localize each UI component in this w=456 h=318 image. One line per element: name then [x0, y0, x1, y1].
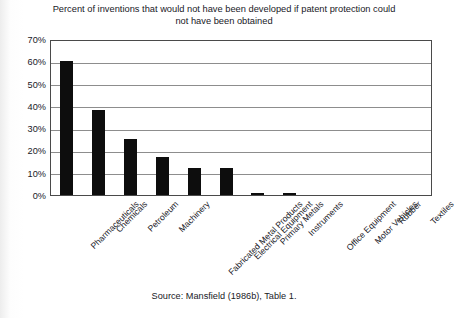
gridline — [51, 63, 431, 64]
gridline — [51, 130, 431, 131]
y-axis-tick-label: 50% — [2, 80, 46, 90]
bar[interactable] — [156, 157, 169, 195]
y-axis-tick-label: 0% — [2, 191, 46, 201]
gridline — [51, 107, 431, 108]
bar[interactable] — [283, 193, 296, 195]
bar[interactable] — [251, 193, 264, 195]
plot-area — [50, 40, 432, 196]
chart-title: Percent of inventions that would not hav… — [46, 3, 402, 28]
bar[interactable] — [92, 110, 105, 195]
bar[interactable] — [124, 139, 137, 195]
chart-title-line-1: Percent of inventions that would not hav… — [53, 4, 327, 14]
y-axis-tick-label: 70% — [2, 35, 46, 45]
gridline — [51, 85, 431, 86]
bar[interactable] — [188, 168, 201, 195]
bar[interactable] — [220, 168, 233, 195]
x-axis-tick-label: Machinery — [177, 199, 212, 234]
y-axis-tick-label: 40% — [2, 102, 46, 112]
y-axis-tick-label: 30% — [2, 124, 46, 134]
x-axis-tick-label: Textiles — [428, 199, 455, 226]
y-axis-tick-label: 60% — [2, 57, 46, 67]
gridline — [51, 152, 431, 153]
y-axis-tick-label: 10% — [2, 169, 46, 179]
gridline — [51, 174, 431, 175]
source-note: Source: Mansfield (1986b), Table 1. — [0, 291, 448, 301]
y-axis-tick-label: 20% — [2, 146, 46, 156]
y-axis: 70%60%50%40%30%20%10%0% — [0, 40, 46, 196]
bar[interactable] — [60, 61, 73, 195]
x-axis-tick-label: Petroleum — [145, 199, 180, 234]
